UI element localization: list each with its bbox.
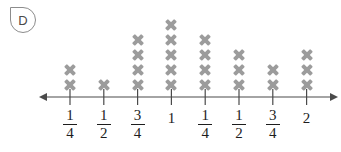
x-mark-icon <box>63 78 78 92</box>
tick-label: 12 <box>87 108 121 141</box>
x-mark-icon <box>232 63 247 77</box>
x-mark-icon <box>96 78 111 92</box>
mark-column <box>159 18 183 93</box>
fraction-numerator: 1 <box>98 108 110 123</box>
whole-number-label: 1 <box>168 108 176 127</box>
mark-column <box>261 63 285 93</box>
fraction-numerator: 1 <box>64 108 76 123</box>
fraction-denominator: 4 <box>132 126 144 141</box>
mark-column <box>193 33 217 93</box>
tick-label: 34 <box>121 108 155 141</box>
x-mark-icon <box>232 78 247 92</box>
tick-label: 14 <box>188 108 222 141</box>
fraction-label: 34 <box>131 108 145 141</box>
x-mark-icon <box>198 78 213 92</box>
x-mark-icon <box>299 63 314 77</box>
fraction-label: 14 <box>63 108 77 141</box>
mark-column <box>126 33 150 93</box>
tick-label: 34 <box>256 108 290 141</box>
x-mark-icon <box>164 63 179 77</box>
x-mark-icon <box>164 18 179 32</box>
fraction-label: 12 <box>97 108 111 141</box>
x-mark-icon <box>130 33 145 47</box>
x-mark-icon <box>265 63 280 77</box>
line-plot: 14123411412342 <box>0 0 341 152</box>
x-mark-icon <box>130 78 145 92</box>
x-mark-icon <box>130 48 145 62</box>
axis-arrow-right <box>330 93 338 101</box>
tick-label: 12 <box>222 108 256 141</box>
fraction-denominator: 4 <box>199 126 211 141</box>
tick-label: 14 <box>53 108 87 141</box>
fraction-numerator: 3 <box>267 108 279 123</box>
x-mark-icon <box>164 78 179 92</box>
x-mark-icon <box>232 48 247 62</box>
x-mark-icon <box>299 78 314 92</box>
x-mark-icon <box>164 33 179 47</box>
fraction-denominator: 2 <box>233 126 245 141</box>
x-mark-icon <box>299 48 314 62</box>
x-mark-icon <box>63 63 78 77</box>
fraction-label: 34 <box>266 108 280 141</box>
mark-column <box>295 48 319 93</box>
fraction-label: 14 <box>198 108 212 141</box>
tick-label: 1 <box>154 108 188 127</box>
x-mark-icon <box>130 63 145 77</box>
x-mark-icon <box>198 63 213 77</box>
fraction-denominator: 4 <box>64 126 76 141</box>
x-mark-icon <box>198 33 213 47</box>
tick-label: 2 <box>290 108 324 127</box>
mark-column <box>58 63 82 93</box>
mark-column <box>92 78 116 93</box>
axis-arrow-left <box>39 93 47 101</box>
fraction-label: 12 <box>232 108 246 141</box>
fraction-numerator: 1 <box>199 108 211 123</box>
fraction-denominator: 4 <box>267 126 279 141</box>
x-mark-icon <box>164 48 179 62</box>
mark-column <box>227 48 251 93</box>
axis-group <box>39 89 338 105</box>
fraction-denominator: 2 <box>98 126 110 141</box>
whole-number-label: 2 <box>303 108 311 127</box>
x-mark-icon <box>198 48 213 62</box>
x-mark-icon <box>265 78 280 92</box>
fraction-numerator: 3 <box>132 108 144 123</box>
fraction-numerator: 1 <box>233 108 245 123</box>
